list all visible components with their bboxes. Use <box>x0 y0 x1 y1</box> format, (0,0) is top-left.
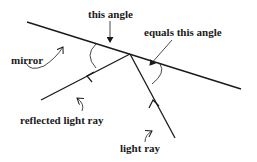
reflection-diagram <box>0 0 257 162</box>
right-angle-arc <box>152 64 162 84</box>
reflected-light-ray-label: reflected light ray <box>20 114 104 126</box>
light-ray-pointer <box>145 131 152 142</box>
light-ray-label: light ray <box>120 142 160 154</box>
light-ray-arrowhead-icon <box>149 100 159 108</box>
mirror-label: mirror <box>11 54 43 66</box>
this-angle-label: this angle <box>88 8 133 20</box>
reflected-ray-pointer <box>77 98 83 111</box>
left-angle-arc <box>90 44 96 68</box>
reflected-ray-line <box>41 54 130 100</box>
equals-this-angle-label: equals this angle <box>144 26 222 38</box>
equals-angle-pointer <box>150 40 172 65</box>
